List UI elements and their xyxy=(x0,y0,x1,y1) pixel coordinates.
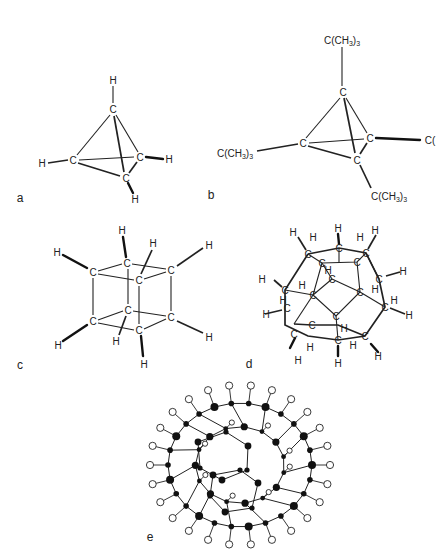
atom-h: H xyxy=(118,225,125,236)
atom-h: H xyxy=(140,359,147,370)
carbon-atom xyxy=(281,454,286,459)
panel-label-b: b xyxy=(208,188,215,202)
carbon-atom xyxy=(281,470,286,475)
bond xyxy=(245,503,265,523)
tert-butyl-label: C(CH3)3 xyxy=(371,191,407,203)
hydrogen-atom xyxy=(316,499,323,506)
carbon-atom xyxy=(212,520,218,526)
hydrogen-atom xyxy=(288,396,295,403)
atom-h: H xyxy=(405,310,412,321)
carbon-atom xyxy=(183,503,189,509)
atom-c: C xyxy=(299,138,306,149)
carbon-atom xyxy=(206,433,213,440)
atom-h: H xyxy=(38,158,45,169)
bond xyxy=(170,465,195,479)
carbon-atom xyxy=(241,500,248,507)
carbon-atom xyxy=(229,401,235,407)
hydrogen-atom xyxy=(287,464,292,469)
hydrogen-atom xyxy=(304,514,311,521)
carbon-atom xyxy=(278,411,284,417)
bond xyxy=(252,483,258,508)
carbon-atom xyxy=(210,472,217,479)
bond xyxy=(263,498,294,506)
atom-c: C xyxy=(167,265,174,276)
panel-c-cubane: C C C C C C C C H H H H H H H H c xyxy=(17,225,213,373)
carbon-atom xyxy=(165,462,171,468)
hydrogen-atom xyxy=(304,408,311,415)
carbon-atom xyxy=(307,447,313,453)
carbon-atom xyxy=(307,477,313,483)
atom-c: C xyxy=(381,302,388,313)
carbon-atom xyxy=(222,509,229,516)
atom-h: H xyxy=(262,309,269,320)
atom-h: H xyxy=(371,284,378,295)
panel-label-c: c xyxy=(17,358,23,372)
hydrogen-atom xyxy=(287,448,292,453)
carbon-atom xyxy=(196,411,202,417)
tert-butyl-label: C(CH3)3 xyxy=(324,35,360,47)
atom-c: C xyxy=(123,258,130,269)
carbon-atom xyxy=(210,403,218,411)
tert-butyl-label: C(CH3)3 xyxy=(217,148,253,160)
carbon-atom xyxy=(224,499,229,504)
hydrogen-atom xyxy=(266,490,271,495)
carbon-atom xyxy=(219,477,226,484)
atom-c: C xyxy=(136,152,143,163)
atom-h: H xyxy=(165,154,172,165)
hydrogen-atom xyxy=(265,423,270,428)
carbon-atom xyxy=(183,421,189,427)
carbon-atom xyxy=(195,512,203,520)
atom-c: C xyxy=(89,316,96,327)
hydrogen-atom xyxy=(204,387,211,394)
hydrogen-atom xyxy=(146,461,153,468)
bond xyxy=(276,424,294,442)
carbon-atom xyxy=(229,524,235,530)
carbon-atom xyxy=(246,401,252,407)
carbon-atom xyxy=(308,461,316,469)
carbon-atom xyxy=(173,491,179,497)
carbon-atom xyxy=(272,439,279,446)
atom-h: H xyxy=(289,227,296,238)
carbon-atom xyxy=(207,493,212,498)
bond xyxy=(186,481,199,506)
hydrogen-atom xyxy=(268,536,275,543)
atom-c: C xyxy=(290,329,297,340)
carbon-atom xyxy=(300,432,308,440)
carbon-atom xyxy=(273,484,280,491)
atom-c: C xyxy=(135,325,142,336)
atom-h: H xyxy=(334,223,341,234)
hydrogen-atom xyxy=(185,527,192,534)
atom-h: H xyxy=(340,323,347,334)
atom-c: C xyxy=(356,287,363,298)
hydrogen-atom xyxy=(202,441,207,446)
carbon-atom xyxy=(255,480,262,487)
hydrogen-atom xyxy=(230,493,235,498)
atom-c: C xyxy=(332,311,339,322)
bond xyxy=(276,487,303,494)
hydrogen-atom xyxy=(247,382,254,389)
atom-h: H xyxy=(279,295,286,306)
atom-h: H xyxy=(309,232,316,243)
carbon-atom xyxy=(245,443,252,450)
atom-c: C xyxy=(366,133,373,144)
carbon-atom xyxy=(301,491,307,497)
carbon-atom xyxy=(197,447,202,452)
panel-label-d: d xyxy=(246,357,253,371)
atom-c: C xyxy=(304,249,311,260)
atom-h: H xyxy=(349,340,356,351)
atom-h: H xyxy=(334,358,341,369)
atom-h: H xyxy=(131,194,138,205)
atom-c: C xyxy=(339,87,346,98)
carbon-atom xyxy=(262,403,270,411)
carbon-atom xyxy=(260,496,265,501)
carbon-atom xyxy=(166,476,174,484)
atom-h: H xyxy=(356,232,363,243)
atom-c: C xyxy=(124,305,131,316)
atom-h: H xyxy=(109,75,116,86)
bond xyxy=(226,432,248,446)
hydrogen-atom xyxy=(203,472,208,477)
atom-c: C xyxy=(69,155,76,166)
atom-h: H xyxy=(390,295,397,306)
hydrogen-atom xyxy=(169,514,176,521)
atom-h: H xyxy=(371,225,378,236)
